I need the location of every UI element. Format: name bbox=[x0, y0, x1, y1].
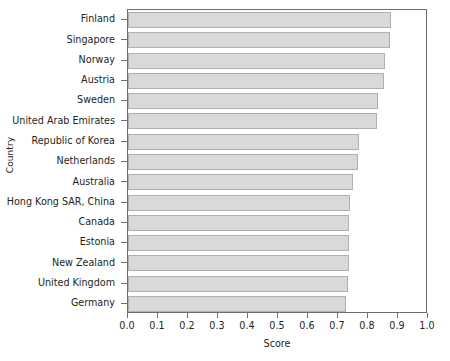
x-axis-tick bbox=[277, 313, 278, 318]
x-axis-title: Score bbox=[127, 338, 427, 349]
y-axis-tick-label: Singapore bbox=[67, 30, 115, 50]
y-axis-tick-label: Norway bbox=[79, 50, 115, 70]
y-axis-tick-label: Austria bbox=[81, 70, 115, 90]
bar bbox=[128, 195, 350, 211]
x-axis-tick bbox=[307, 313, 308, 318]
y-axis-tick-label: Canada bbox=[78, 212, 115, 232]
y-axis-tick-label: Estonia bbox=[80, 232, 115, 252]
bar bbox=[128, 255, 349, 271]
bar bbox=[128, 32, 390, 48]
bar-chart: Country FinlandSingaporeNorwayAustriaSwe… bbox=[0, 0, 450, 361]
y-axis-tick-label: New Zealand bbox=[52, 253, 115, 273]
bar bbox=[128, 296, 346, 312]
y-axis-tick-label: Hong Kong SAR, China bbox=[7, 192, 115, 212]
bar bbox=[128, 134, 359, 150]
bar bbox=[128, 53, 385, 69]
x-axis-tick bbox=[157, 313, 158, 318]
x-axis-tick bbox=[127, 313, 128, 318]
bar bbox=[128, 174, 353, 190]
x-axis-tick bbox=[337, 313, 338, 318]
x-axis-tick bbox=[427, 313, 428, 318]
bar bbox=[128, 215, 349, 231]
bars-container bbox=[128, 10, 426, 312]
x-axis-tick bbox=[187, 313, 188, 318]
y-axis-tick-label: Netherlands bbox=[57, 151, 115, 171]
bar bbox=[128, 154, 358, 170]
bar bbox=[128, 93, 378, 109]
y-axis-tick-label: Sweden bbox=[77, 90, 115, 110]
y-axis-tick-label: United Arab Emirates bbox=[12, 111, 115, 131]
bar bbox=[128, 12, 391, 28]
bar bbox=[128, 235, 349, 251]
x-axis-tick bbox=[367, 313, 368, 318]
y-axis-tick-label: United Kingdom bbox=[38, 273, 115, 293]
plot-area bbox=[127, 9, 427, 313]
y-axis-tick-label: Finland bbox=[81, 9, 115, 29]
x-axis-tick bbox=[397, 313, 398, 318]
x-axis-tick-label: 1.0 bbox=[407, 320, 447, 331]
x-axis-tick bbox=[217, 313, 218, 318]
y-axis-tick-label: Republic of Korea bbox=[31, 131, 115, 151]
bar bbox=[128, 113, 377, 129]
y-axis-tick-label: Germany bbox=[71, 293, 115, 313]
bar bbox=[128, 276, 348, 292]
y-axis-category-labels: FinlandSingaporeNorwayAustriaSwedenUnite… bbox=[0, 9, 120, 313]
y-axis-tick-label: Australia bbox=[73, 172, 115, 192]
bar bbox=[128, 73, 384, 89]
x-axis-tick bbox=[247, 313, 248, 318]
